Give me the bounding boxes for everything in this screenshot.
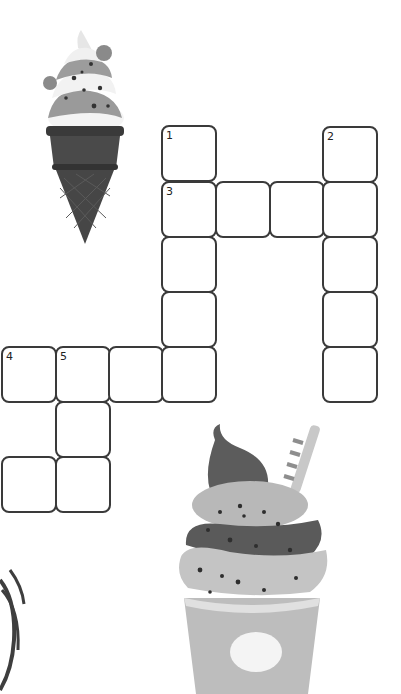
crossword-cell[interactable] [1, 456, 57, 513]
crossword-cell[interactable] [55, 401, 111, 458]
crossword-cell[interactable]: 3 [161, 181, 217, 238]
clue-number: 5 [60, 351, 67, 362]
crossword-cell[interactable] [161, 291, 217, 348]
crossword-cell[interactable] [161, 346, 217, 403]
crossword-cell[interactable]: 1 [161, 125, 217, 182]
swirl-lines-illustration [0, 560, 40, 694]
crossword-cell[interactable] [108, 346, 164, 403]
crossword-cell[interactable] [215, 181, 271, 238]
clue-number: 2 [327, 131, 334, 142]
clue-number: 4 [6, 351, 13, 362]
ice-cream-cup-illustration [160, 420, 340, 694]
clue-number: 1 [166, 130, 173, 141]
ice-cream-cone-illustration [36, 28, 132, 246]
crossword-cell[interactable] [322, 236, 378, 293]
crossword-cell[interactable]: 5 [55, 346, 111, 403]
clue-number: 3 [166, 186, 173, 197]
crossword-cell[interactable] [322, 346, 378, 403]
crossword-cell[interactable] [269, 181, 325, 238]
crossword-cell[interactable]: 2 [322, 126, 378, 183]
crossword-cell[interactable] [55, 456, 111, 513]
crossword-cell[interactable] [161, 236, 217, 293]
crossword-cell[interactable] [322, 291, 378, 348]
crossword-cell[interactable] [322, 181, 378, 238]
crossword-cell[interactable]: 4 [1, 346, 57, 403]
